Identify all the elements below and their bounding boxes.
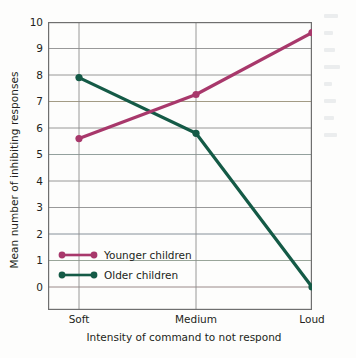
vertical-gridlines — [79, 22, 196, 310]
y-tick-4: 4 — [26, 176, 43, 186]
plot-area: Younger children Older children — [48, 22, 312, 310]
x-tick-loud: Loud — [299, 313, 324, 325]
x-axis-title-text: Intensity of command to not respond — [86, 331, 281, 343]
y-tick-0: 0 — [26, 282, 43, 292]
x-tick-soft: Soft — [69, 313, 90, 325]
chart-canvas: Younger children Older children — [48, 22, 312, 310]
y-tick-10: 10 — [26, 17, 43, 27]
y-tick-3: 3 — [26, 202, 43, 212]
y-tick-1: 1 — [26, 255, 43, 265]
x-tick-medium: Medium — [175, 313, 217, 325]
chart-figure: Mean number of inhibiting responses 10 9… — [0, 0, 356, 358]
legend-label-older-children: Older children — [104, 269, 178, 281]
series-younger-children — [75, 29, 312, 142]
x-axis-title: Intensity of command to not respond — [0, 331, 356, 343]
x-axis-tick-labels: Soft Medium Loud — [0, 313, 356, 327]
plot-frame — [49, 23, 312, 310]
y-tick-2: 2 — [26, 229, 43, 239]
y-axis-title: Mean number of inhibiting responses — [6, 37, 22, 303]
y-tick-7: 7 — [26, 96, 43, 106]
y-tick-8: 8 — [26, 70, 43, 80]
legend-item-older-children: Older children — [59, 269, 178, 281]
page-showthrough-artifact — [324, 14, 354, 184]
y-axis-tick-labels: 10 9 8 7 6 5 4 3 2 1 0 — [26, 0, 43, 358]
y-tick-6: 6 — [26, 123, 43, 133]
y-tick-5: 5 — [26, 149, 43, 159]
legend-label-younger-children: Younger children — [103, 249, 192, 261]
y-tick-9: 9 — [26, 43, 43, 53]
